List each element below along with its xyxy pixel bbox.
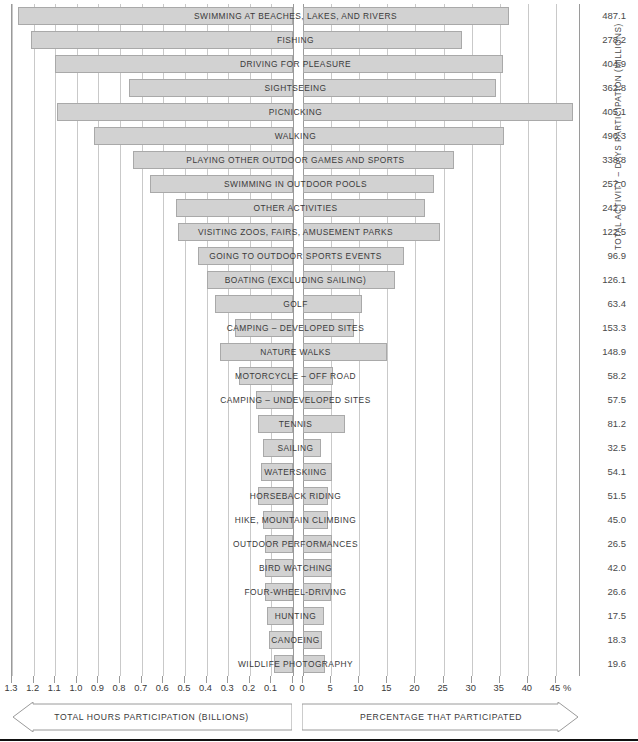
bar-row: OUTDOOR PERFORMANCES (12, 535, 579, 553)
activity-days-value: 17.5 (608, 607, 627, 625)
percent-sign: % (563, 683, 571, 693)
axis-tick-label: 0.3 (221, 683, 234, 693)
axis-tick-label: 30 (465, 683, 475, 693)
chart-root: SWIMMING AT BEACHES, LAKES, AND RIVERSFI… (0, 0, 638, 742)
activity-days-value: 26.5 (608, 535, 627, 553)
bar-row: OTHER ACTIVITIES (12, 199, 579, 217)
axis-tick (471, 676, 472, 683)
axis-tick (386, 676, 387, 683)
axis-tick (54, 676, 55, 683)
bar-row-label: GOLF (12, 295, 579, 313)
activity-days-value: 148.9 (602, 343, 626, 361)
bar-row-label: OUTDOOR PERFORMANCES (12, 535, 579, 553)
bar-row: PLAYING OTHER OUTDOOR GAMES AND SPORTS (12, 151, 579, 169)
axis-tick-label: 1.2 (26, 683, 39, 693)
axis-tick-label: 0.1 (264, 683, 277, 693)
bar-row-label: WALKING (12, 127, 579, 145)
bar-rows: SWIMMING AT BEACHES, LAKES, AND RIVERSFI… (12, 4, 579, 676)
bar-row-label: BIRD WATCHING (12, 559, 579, 577)
axis-tick-label: 0.7 (134, 683, 147, 693)
bar-row-label: SWIMMING AT BEACHES, LAKES, AND RIVERS (12, 7, 579, 25)
bar-row-label: CAMPING – DEVELOPED SITES (12, 319, 579, 337)
axis-tick-label: 25 (437, 683, 447, 693)
bar-row-label: NATURE WALKS (12, 343, 579, 361)
axis-tick (249, 676, 250, 683)
axis-tick-label: 20 (409, 683, 419, 693)
bar-row-label: CAMPING – UNDEVELOPED SITES (12, 391, 579, 409)
axis-tick (11, 676, 12, 683)
axis-tick-label: 1.3 (5, 683, 18, 693)
axis-tick-label: 1.0 (69, 683, 82, 693)
bar-row: FOUR-WHEEL-DRIVING (12, 583, 579, 601)
bar-row-label: OTHER ACTIVITIES (12, 199, 579, 217)
axis-tick (302, 676, 303, 683)
left-axis-arrow-band: TOTAL HOURS PARTICIPATION (BILLIONS) (11, 702, 292, 732)
axis-tick-label: 0.2 (242, 683, 255, 693)
activity-days-value: 153.3 (602, 319, 626, 337)
bar-row: CAMPING – UNDEVELOPED SITES (12, 391, 579, 409)
bar-row: SWIMMING IN OUTDOOR POOLS (12, 175, 579, 193)
bar-row: WILDLIFE PHOTOGRAPHY (12, 655, 579, 673)
bar-row-label: FISHING (12, 31, 579, 49)
activity-days-value: 81.2 (608, 415, 627, 433)
bar-row: FISHING (12, 31, 579, 49)
bar-row: SWIMMING AT BEACHES, LAKES, AND RIVERS (12, 7, 579, 25)
activity-days-value: 54.1 (608, 463, 627, 481)
bar-row: HORSEBACK RIDING (12, 487, 579, 505)
axis-tick (292, 676, 293, 683)
bar-row: WATERSKIING (12, 463, 579, 481)
axis-tick (162, 676, 163, 683)
bar-row: BOATING (EXCLUDING SAILING) (12, 271, 579, 289)
bar-row-label: WATERSKIING (12, 463, 579, 481)
bar-row-label: CANOEING (12, 631, 579, 649)
bottom-rule (0, 739, 638, 741)
bar-row-label: WILDLIFE PHOTOGRAPHY (12, 655, 579, 673)
axis-tick (358, 676, 359, 683)
bar-row: HIKE, MOUNTAIN CLIMBING (12, 511, 579, 529)
axis-tick-label: 0 (289, 683, 294, 693)
axis-tick (443, 676, 444, 683)
bar-row-label: MOTORCYCLE – OFF ROAD (12, 367, 579, 385)
bar-row-label: HUNTING (12, 607, 579, 625)
bar-row-label: VISITING ZOOS, FAIRS, AMUSEMENT PARKS (12, 223, 579, 241)
axis-tick-label: 0.4 (199, 683, 212, 693)
activity-days-value: 51.5 (608, 487, 627, 505)
plot-area: SWIMMING AT BEACHES, LAKES, AND RIVERSFI… (11, 4, 580, 676)
bar-row: VISITING ZOOS, FAIRS, AMUSEMENT PARKS (12, 223, 579, 241)
bar-row: CANOEING (12, 631, 579, 649)
bar-row-label: HIKE, MOUNTAIN CLIMBING (12, 511, 579, 529)
activity-days-value: 126.1 (602, 271, 626, 289)
bar-row: SIGHTSEEING (12, 79, 579, 97)
axis-tick-label: 0.5 (177, 683, 190, 693)
bar-row: SAILING (12, 439, 579, 457)
axis-tick-label: 40 (522, 683, 532, 693)
bar-row: HUNTING (12, 607, 579, 625)
bar-row: GOLF (12, 295, 579, 313)
bar-row-label: PICNICKING (12, 103, 579, 121)
bar-row: GOING TO OUTDOOR SPORTS EVENTS (12, 247, 579, 265)
bar-row-label: HORSEBACK RIDING (12, 487, 579, 505)
axis-tick-label: 45 (550, 683, 560, 693)
axis-tick (499, 676, 500, 683)
axis-tick (206, 676, 207, 683)
axis-tick-labels: 1.31.21.11.00.90.80.70.60.50.40.30.20.10… (0, 683, 638, 697)
axis-tick (527, 676, 528, 683)
activity-days-value: 19.6 (608, 655, 627, 673)
axis-tick (76, 676, 77, 683)
bar-row-label: BOATING (EXCLUDING SAILING) (12, 271, 579, 289)
axis-tick (184, 676, 185, 683)
bar-row: PICNICKING (12, 103, 579, 121)
bar-row-label: SIGHTSEEING (12, 79, 579, 97)
activity-days-value: 32.5 (608, 439, 627, 457)
bar-row: TENNIS (12, 415, 579, 433)
bar-row-label: TENNIS (12, 415, 579, 433)
axis-tick (414, 676, 415, 683)
value-column-axis-title: TOTAL ACTIVITY – DAYS PARTICIPATION (MIL… (614, 23, 623, 250)
axis-tick-label: 1.1 (48, 683, 61, 693)
axis-tick (97, 676, 98, 683)
activity-days-value: 45.0 (608, 511, 627, 529)
bar-row: BIRD WATCHING (12, 559, 579, 577)
left-axis-title: TOTAL HOURS PARTICIPATION (BILLIONS) (11, 702, 292, 732)
activity-days-value: 63.4 (608, 295, 627, 313)
activity-days-value: 487.1 (602, 7, 626, 25)
